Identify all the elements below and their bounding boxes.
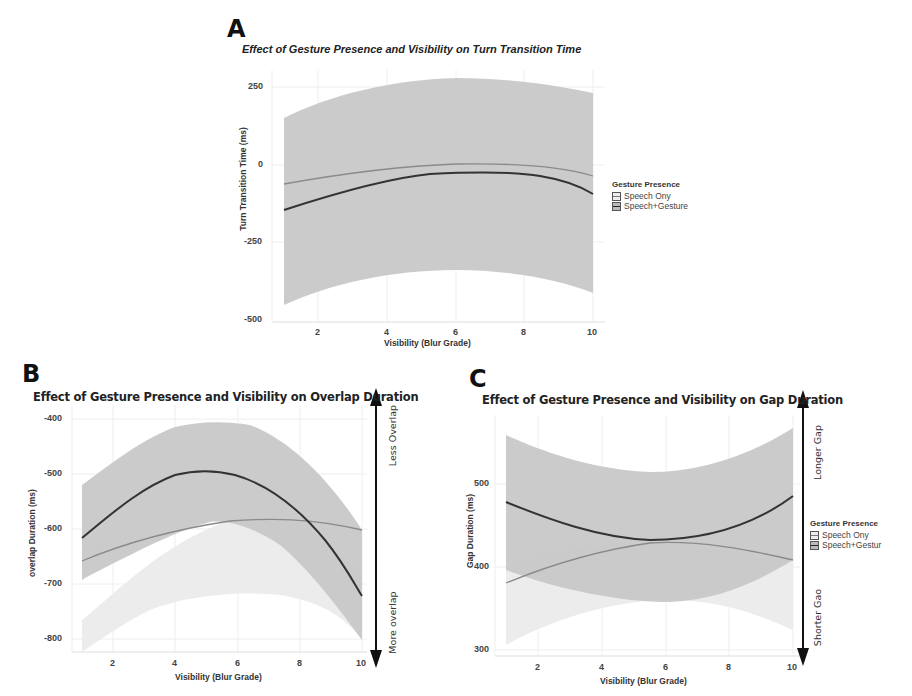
panel-c-shorter-gap-label: Shorter Gao <box>812 583 823 653</box>
panel-a-legend-item-speech-gesture: Speech+Gesture <box>612 201 688 211</box>
panel-b-more-overlap-label: More overlap <box>387 583 398 663</box>
panel-c-legend-item-speech-gesture: Speech+Gestur <box>810 540 881 550</box>
panel-b-letter: B <box>22 360 40 388</box>
panel-c-xtick: 4 <box>599 662 604 672</box>
panel-a-ci-band <box>284 78 593 305</box>
panel-b-less-overlap-label: Less Overlap <box>387 396 398 476</box>
panel-b-xtick: 10 <box>356 658 366 668</box>
panel-a-title: Effect of Gesture Presence and Visibilit… <box>242 43 581 55</box>
panel-a-xlabel: Visibility (Blur Grade) <box>384 338 471 348</box>
panel-c-direction-arrow <box>797 390 809 666</box>
panel-c-ytick: 300 <box>474 644 489 654</box>
panel-a-plot <box>272 70 605 322</box>
panel-b-direction-arrow <box>370 388 382 668</box>
panel-b-ylabel: overlap Duration (ms) <box>27 483 37 583</box>
panel-a-letter: A <box>227 15 246 43</box>
panel-c-legend-title: Gesture Presence <box>810 519 881 528</box>
panel-a-xtick: 4 <box>384 327 389 337</box>
panel-c-xtick: 10 <box>787 662 797 672</box>
panel-b-plot <box>72 405 367 652</box>
panel-b-xlabel: Visibility (Blur Grade) <box>175 672 262 682</box>
panel-c-xtick: 6 <box>663 662 668 672</box>
panel-b-ytick: -500 <box>44 468 62 478</box>
panel-b-xtick: 6 <box>235 658 240 668</box>
legend-label: Speech Ony <box>822 530 869 540</box>
panel-a-legend: Gesture Presence Speech Ony Speech+Gestu… <box>612 180 688 211</box>
legend-swatch-speech-gesture <box>612 202 621 211</box>
panel-c-letter: C <box>469 365 487 393</box>
panel-c-ytick: 500 <box>474 478 489 488</box>
legend-swatch-speech-only <box>810 531 819 540</box>
panel-a-ytick: 250 <box>248 81 263 91</box>
panel-a-ylabel: Turn Transition Time (ms) <box>238 119 248 239</box>
panel-c-xlabel: Visibility (Blur Grade) <box>600 676 687 686</box>
legend-label: Speech Ony <box>624 191 671 201</box>
legend-swatch-speech-only <box>612 192 621 201</box>
panel-b-ytick: -600 <box>44 523 62 533</box>
panel-a-xtick: 2 <box>315 327 320 337</box>
panel-c-ci-band-speech-gesture <box>506 428 793 602</box>
panel-a-legend-item-speech-only: Speech Ony <box>612 191 688 201</box>
panel-b-ytick: -800 <box>44 633 62 643</box>
panel-a-legend-title: Gesture Presence <box>612 180 688 189</box>
legend-label: Speech+Gestur <box>822 540 881 550</box>
panel-c-plot <box>495 415 800 656</box>
panel-b-xtick: 2 <box>110 658 115 668</box>
panel-c-longer-gap-label: Longer Gap <box>812 418 823 488</box>
panel-a-xtick: 8 <box>521 327 526 337</box>
legend-label: Speech+Gesture <box>624 201 688 211</box>
panel-b-xtick: 4 <box>172 658 177 668</box>
panel-b-xtick: 8 <box>297 658 302 668</box>
panel-a-ytick: -500 <box>244 314 262 324</box>
panel-b-title: Effect of Gesture Presence and Visibilit… <box>33 390 418 404</box>
panel-b-ytick: -700 <box>44 578 62 588</box>
panel-b-ytick: -400 <box>44 413 62 423</box>
panel-c-ylabel: Gap Duration (ms) <box>465 491 475 571</box>
panel-c-legend: Gesture Presence Speech Ony Speech+Gestu… <box>810 519 881 550</box>
panel-c-legend-item-speech-only: Speech Ony <box>810 530 881 540</box>
panel-c-title: Effect of Gesture Presence and Visibilit… <box>482 393 843 407</box>
panel-c-xtick: 8 <box>726 662 731 672</box>
panel-c-xtick: 2 <box>535 662 540 672</box>
panel-c-ytick: 400 <box>474 561 489 571</box>
panel-a-xtick: 6 <box>453 327 458 337</box>
panel-a-ytick: 0 <box>258 159 263 169</box>
figure-canvas <box>0 0 912 696</box>
legend-swatch-speech-gesture <box>810 541 819 550</box>
panel-a-xtick: 10 <box>587 327 597 337</box>
